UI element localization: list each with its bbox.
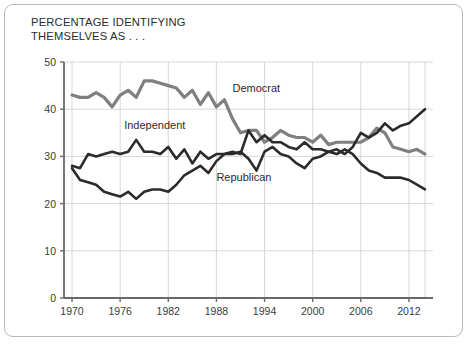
- y-axis-ticks: 01020304050: [44, 56, 64, 304]
- x-tick-label: 1994: [253, 305, 277, 317]
- series-label-democrat: Democrat: [232, 82, 280, 94]
- x-tick-label: 1970: [60, 305, 84, 317]
- y-tick-label: 0: [50, 292, 56, 304]
- x-tick-label: 2006: [349, 305, 373, 317]
- x-tick-label: 1982: [157, 305, 181, 317]
- series-label-independent: Independent: [124, 119, 185, 131]
- x-tick-label: 1976: [108, 305, 132, 317]
- x-axis-ticks: 19701976198219881994200020062012: [60, 298, 420, 317]
- x-tick-label: 1988: [205, 305, 229, 317]
- series-label-republican: Republican: [216, 171, 271, 183]
- x-tick-label: 2012: [397, 305, 421, 317]
- y-tick-label: 50: [44, 56, 56, 68]
- y-tick-label: 10: [44, 245, 56, 257]
- line-chart: 01020304050 1970197619821988199420002006…: [0, 0, 470, 345]
- y-tick-label: 40: [44, 103, 56, 115]
- y-tick-label: 20: [44, 198, 56, 210]
- x-tick-label: 2000: [301, 305, 325, 317]
- y-tick-label: 30: [44, 150, 56, 162]
- chart-figure: PERCENTAGE IDENTIFYING THEMSELVES AS . .…: [0, 0, 470, 345]
